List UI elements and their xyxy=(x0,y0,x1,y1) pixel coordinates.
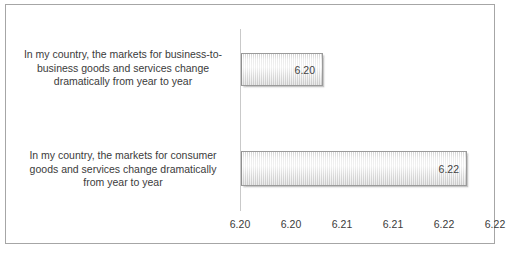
bar-container: 6.20 xyxy=(241,53,323,86)
bar-value-label: 6.20 xyxy=(295,64,315,75)
bar-row: In my country, the markets for business-… xyxy=(6,49,494,83)
category-label-consumer: In my country, the markets for consumer … xyxy=(12,149,234,190)
bar-container: 6.22 xyxy=(241,151,467,186)
value-axis-tick-label: 6.20 xyxy=(217,217,263,231)
bar-business-to-business[interactable]: 6.20 xyxy=(241,53,323,86)
value-axis-tick-label: 6.21 xyxy=(370,217,416,231)
value-axis-tick-label: 6.22 xyxy=(421,217,467,231)
bar-consumer[interactable]: 6.22 xyxy=(241,151,467,186)
value-axis-tick-label: 6.22 xyxy=(472,217,510,231)
bar-row: In my country, the markets for consumer … xyxy=(6,147,494,183)
bar-value-label: 6.22 xyxy=(439,163,459,174)
category-label-business-to-business: In my country, the markets for business-… xyxy=(12,48,234,89)
chart-frame: In my country, the markets for business-… xyxy=(5,4,495,244)
value-axis-tick-label: 6.21 xyxy=(319,217,365,231)
value-axis-tick-labels: 6.206.206.216.216.226.22 xyxy=(240,217,496,233)
plot-area: In my country, the markets for business-… xyxy=(6,5,494,243)
value-axis-tick-label: 6.20 xyxy=(268,217,314,231)
